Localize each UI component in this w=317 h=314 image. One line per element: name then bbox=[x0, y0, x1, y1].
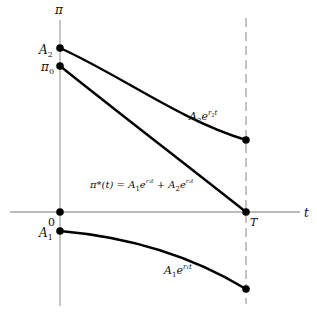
x-axis-label: t bbox=[304, 206, 309, 220]
curve-pi-star bbox=[60, 66, 246, 212]
label-pi-star-equation: π*(t) = A1er₁t + A2er₂t bbox=[89, 177, 194, 193]
label-A2: A2 bbox=[38, 43, 53, 59]
point-A1 bbox=[56, 227, 64, 235]
point-upper-end bbox=[242, 136, 250, 144]
curve-A1-exp-r1t bbox=[60, 231, 246, 289]
label-lower-curve: A1er₁t bbox=[163, 263, 192, 279]
diagram: π t 0 T A2 π0 A1 A2er2t π*(t) = A1er₁t +… bbox=[0, 0, 317, 314]
y-axis-label: π bbox=[54, 3, 64, 17]
point-pi0 bbox=[56, 62, 64, 70]
point-A2 bbox=[56, 44, 64, 52]
curve-A2-exp-r2t bbox=[60, 48, 246, 140]
point-lower-end bbox=[242, 285, 250, 293]
diagram-canvas: π t 0 T A2 π0 A1 A2er2t π*(t) = A1er₁t +… bbox=[0, 0, 317, 314]
label-upper-curve: A2er2t bbox=[188, 109, 217, 125]
point-origin bbox=[56, 208, 64, 216]
label-pi0: π0 bbox=[40, 60, 54, 76]
terminal-label: T bbox=[250, 216, 259, 229]
origin-label: 0 bbox=[48, 216, 55, 229]
point-T bbox=[242, 208, 250, 216]
